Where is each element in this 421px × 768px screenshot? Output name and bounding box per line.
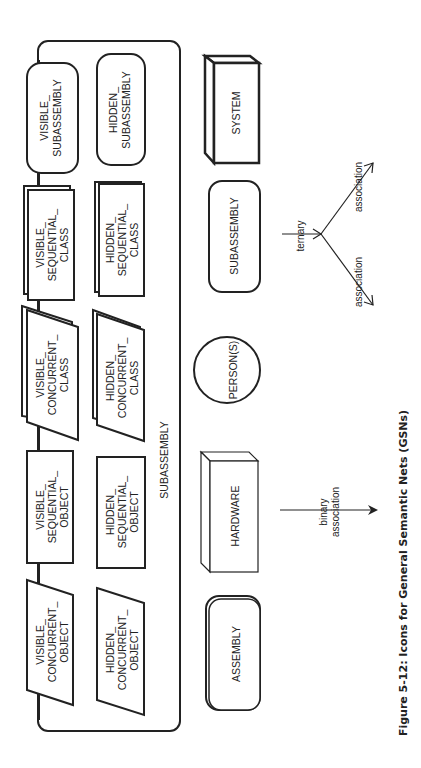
svg-text:HIDDEN_: HIDDEN_ [107,87,119,133]
svg-text:OBJECT: OBJECT [128,491,140,533]
svg-text:HIDDEN_: HIDDEN_ [104,355,116,401]
svg-text:CONCURRENT_: CONCURRENT_ [46,602,58,683]
hidden-concurrent-class-icon: HIDDEN_ CONCURRENT_ CLASS [93,310,144,441]
svg-text:VISIBLE_: VISIBLE_ [34,619,46,665]
svg-text:HARDWARE: HARDWARE [229,486,241,547]
svg-text:CLASS: CLASS [128,361,140,395]
visible-subassembly-icon: VISIBLE_ SUBASSEMBLY [27,63,78,173]
svg-text:CONCURRENT_: CONCURRENT_ [46,335,58,416]
binary-association-edge: binary association [280,487,378,537]
visible-sequential-class-icon: VISIBLE_ SEQUENTIAL_ CLASS [24,186,74,300]
svg-text:VISIBLE_: VISIBLE_ [34,222,46,268]
svg-text:ternary: ternary [295,220,306,251]
svg-text:SEQUENTIAL_: SEQUENTIAL_ [46,209,58,282]
visible-concurrent-class-icon: VISIBLE_ CONCURRENT_ CLASS [22,306,78,440]
svg-text:SUBASSEMBLY: SUBASSEMBLY [51,79,63,156]
persons-icon: PERSON(S) [194,337,260,403]
svg-text:VISIBLE_: VISIBLE_ [34,484,46,530]
svg-text:HIDDEN_: HIDDEN_ [104,217,116,263]
svg-text:association: association [353,162,364,212]
hidden-sequential-object-icon: HIDDEN_ SEQUENTIAL_ OBJECT [97,457,145,568]
svg-text:SEQUENTIAL_: SEQUENTIAL_ [116,204,128,277]
svg-text:PERSON(S): PERSON(S) [227,341,239,399]
svg-text:ASSEMBLY: ASSEMBLY [230,626,242,682]
svg-text:SYSTEM: SYSTEM [230,91,242,134]
subassembly-icon: SUBASSEMBLY [209,181,260,292]
svg-text:OBJECT: OBJECT [128,629,140,671]
hidden-concurrent-object-icon: HIDDEN_ CONCURRENT_ OBJECT [97,588,144,715]
svg-text:HIDDEN_: HIDDEN_ [104,489,116,535]
svg-text:CONCURRENT_: CONCURRENT_ [116,610,128,691]
ternary-association-edge: ternary association association [282,162,373,307]
hidden-subassembly-icon: HIDDEN_ SUBASSEMBLY [97,54,145,165]
svg-text:CONCURRENT_: CONCURRENT_ [116,338,128,419]
svg-text:OBJECT: OBJECT [58,486,70,528]
svg-text:CLASS: CLASS [58,228,70,262]
svg-text:association: association [353,257,364,307]
svg-text:CLASS: CLASS [58,358,70,392]
container-label: SUBASSEMBLY [158,421,170,498]
visible-concurrent-object-icon: VISIBLE_ CONCURRENT_ OBJECT [27,580,73,705]
system-icon: SYSTEM [205,56,259,163]
svg-text:SUBASSEMBLY: SUBASSEMBLY [228,197,240,274]
svg-text:HIDDEN_: HIDDEN_ [104,627,116,673]
visible-sequential-object-icon: VISIBLE_ SEQUENTIAL_ OBJECT [27,451,73,563]
svg-text:SEQUENTIAL_: SEQUENTIAL_ [116,476,128,549]
gsn-icons-diagram: SUBASSEMBLY VISIBLE_ SUBASSEMBLY HIDDEN_… [0,0,421,768]
svg-text:VISIBLE_: VISIBLE_ [38,95,50,141]
svg-text:VISIBLE_: VISIBLE_ [34,352,46,398]
figure-caption: Figure 5-12: Icons for General Semantic … [397,410,410,736]
svg-text:CLASS: CLASS [128,223,140,257]
svg-text:SEQUENTIAL_: SEQUENTIAL_ [46,471,58,544]
svg-text:binary: binary [318,498,329,525]
svg-text:association: association [330,487,341,537]
svg-text:SUBASSEMBLY: SUBASSEMBLY [120,71,132,148]
hardware-icon: HARDWARE [201,452,258,572]
svg-text:OBJECT: OBJECT [58,621,70,663]
assembly-icon: ASSEMBLY [206,596,260,710]
hidden-sequential-class-icon: HIDDEN_ SEQUENTIAL_ CLASS [95,182,144,296]
